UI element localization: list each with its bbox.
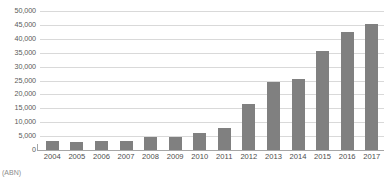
y-axis-tick-label: 40,000 (0, 35, 36, 42)
bar (169, 137, 182, 150)
x-axis-tick-label: 2008 (142, 152, 159, 162)
y-axis-tick-label: 45,000 (0, 21, 36, 28)
bar (267, 82, 280, 150)
bar (95, 141, 108, 150)
plot-area: 05,00010,00015,00020,00025,00030,00035,0… (0, 0, 390, 160)
bars-layer (40, 11, 384, 150)
y-axis-tick-label: 35,000 (0, 49, 36, 56)
bar (242, 104, 255, 150)
bar (218, 128, 231, 150)
x-axis: 2004200520062007200820092010201120122013… (40, 152, 384, 164)
x-axis-tick-label: 2017 (363, 152, 380, 162)
x-axis-tick-label: 2014 (290, 152, 307, 162)
x-axis-tick-label: 2015 (314, 152, 331, 162)
bar-chart-figure: 05,00010,00015,00020,00025,00030,00035,0… (0, 0, 390, 178)
x-axis-tick-label: 2006 (93, 152, 110, 162)
x-axis-tick-label: 2004 (44, 152, 61, 162)
x-axis-tick-label: 2012 (240, 152, 257, 162)
x-axis-tick-label: 2005 (68, 152, 85, 162)
x-axis-line (37, 150, 384, 151)
bar (316, 51, 329, 150)
bar (341, 32, 354, 150)
x-axis-tick-label: 2009 (167, 152, 184, 162)
y-axis-tick-label: 30,000 (0, 63, 36, 70)
chart-caption: (ABN) (2, 168, 388, 177)
bar (144, 137, 157, 150)
x-axis-tick-label: 2007 (118, 152, 135, 162)
x-axis-tick-label: 2016 (339, 152, 356, 162)
bar (46, 141, 59, 150)
y-axis: 05,00010,00015,00020,00025,00030,00035,0… (0, 0, 36, 160)
bar (193, 133, 206, 150)
y-axis-tick-label: 20,000 (0, 91, 36, 98)
y-axis-tick-label: 50,000 (0, 7, 36, 14)
y-axis-tick-label: 10,000 (0, 119, 36, 126)
x-axis-tick-label: 2013 (265, 152, 282, 162)
y-axis-tick-label: 0 (0, 146, 36, 153)
bar (365, 24, 378, 150)
bar (70, 142, 83, 150)
bar (292, 79, 305, 150)
bar (120, 141, 133, 150)
y-axis-tick-label: 25,000 (0, 77, 36, 84)
x-axis-tick-label: 2011 (216, 152, 232, 162)
y-axis-line (37, 144, 38, 151)
y-axis-tick-label: 5,000 (0, 132, 36, 139)
y-axis-tick-label: 15,000 (0, 105, 36, 112)
x-axis-tick-label: 2010 (191, 152, 208, 162)
